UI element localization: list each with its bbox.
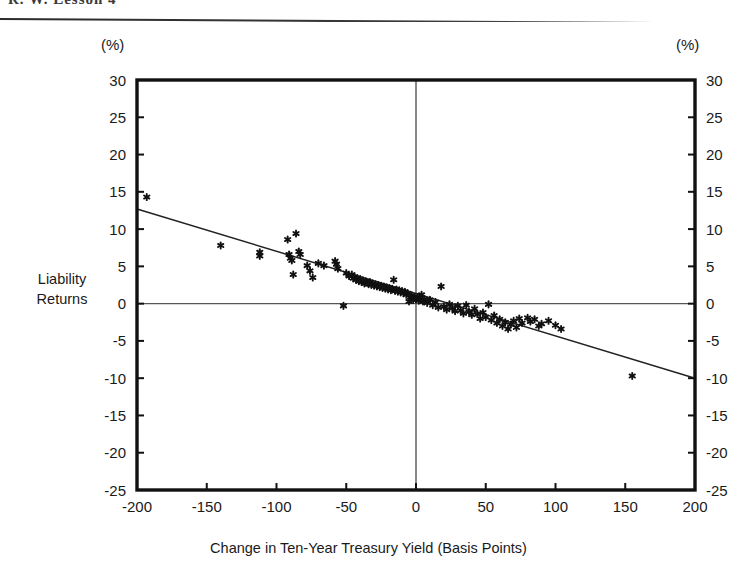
data-point — [436, 304, 441, 310]
y-tick-label-right: -10 — [706, 370, 728, 387]
y-tick-label-left: 5 — [118, 258, 126, 275]
data-point — [483, 314, 488, 320]
data-point — [491, 312, 496, 318]
data-point — [511, 318, 516, 324]
y-tick-label-left: 10 — [109, 221, 126, 238]
y-tick-label-left: -25 — [104, 482, 126, 499]
data-point-layer — [144, 194, 635, 379]
x-tick-label: -200 — [122, 498, 152, 515]
data-point — [486, 301, 491, 307]
data-point — [464, 302, 469, 308]
data-point — [532, 316, 537, 322]
y-tick-label-left: 20 — [109, 146, 126, 163]
y-tick-label-left: 0 — [118, 295, 126, 312]
data-point — [307, 268, 312, 274]
data-point — [289, 257, 294, 263]
x-tick-label: 0 — [412, 498, 420, 515]
data-point — [144, 194, 149, 200]
data-point — [285, 236, 290, 242]
y-tick-label-right: -20 — [706, 444, 728, 461]
y-tick-label-right: 10 — [706, 221, 723, 238]
x-tick-label: -150 — [192, 498, 222, 515]
y-tick-label-left: -5 — [113, 332, 126, 349]
data-point — [519, 320, 524, 326]
header-title: R. W. Lesson 4 — [8, 0, 117, 8]
data-point — [298, 251, 303, 257]
data-point — [438, 283, 443, 289]
data-point — [553, 322, 558, 328]
y-tick-label-left: 15 — [109, 183, 126, 200]
data-point — [341, 303, 346, 309]
data-point — [503, 319, 508, 325]
x-tick-label: 50 — [477, 498, 494, 515]
y-tick-label-right: 0 — [706, 295, 714, 312]
data-point — [316, 260, 321, 266]
data-point — [461, 310, 466, 316]
y-tick-label-right: 25 — [706, 109, 723, 126]
x-tick-label: 100 — [543, 498, 568, 515]
data-point — [257, 249, 262, 255]
data-point — [539, 321, 544, 327]
y-tick-label-right: 20 — [706, 146, 723, 163]
x-tick-label: 200 — [682, 498, 707, 515]
data-point — [514, 324, 519, 330]
data-point — [497, 316, 502, 322]
data-point — [321, 263, 326, 269]
y-tick-label-right: -25 — [706, 482, 728, 499]
y-tick-label-left: -10 — [104, 370, 126, 387]
y-tick-label-right: -5 — [706, 332, 719, 349]
data-point — [469, 312, 474, 318]
x-tick-label: -50 — [335, 498, 357, 515]
data-point — [310, 274, 315, 280]
data-point — [630, 373, 635, 379]
y-tick-label-right: 5 — [706, 258, 714, 275]
y-tick-label-right: 30 — [706, 72, 723, 89]
x-tick-label: -100 — [261, 498, 291, 515]
data-point — [218, 242, 223, 248]
plot-canvas: -25-25-20-20-15-15-10-10-5-5005510101515… — [0, 22, 737, 542]
x-tick-label: 150 — [613, 498, 638, 515]
data-point — [291, 271, 296, 277]
y-tick-label-left: 25 — [109, 109, 126, 126]
data-point — [546, 318, 551, 324]
data-point — [293, 230, 298, 236]
data-point — [558, 326, 563, 332]
y-tick-label-right: -15 — [706, 407, 728, 424]
data-point — [335, 266, 340, 272]
x-axis-title: Change in Ten-Year Treasury Yield (Basis… — [0, 540, 737, 556]
y-tick-label-right: 15 — [706, 183, 723, 200]
data-point — [477, 315, 482, 321]
zero-reference-lines — [137, 80, 695, 490]
scatter-chart: (%) (%) Liability Returns Change in Ten-… — [0, 22, 737, 577]
y-tick-label-left: 30 — [109, 72, 126, 89]
y-tick-label-left: -15 — [104, 407, 126, 424]
data-point — [391, 277, 396, 283]
page-header: R. W. Lesson 4 — [0, 0, 737, 22]
y-tick-label-left: -20 — [104, 444, 126, 461]
